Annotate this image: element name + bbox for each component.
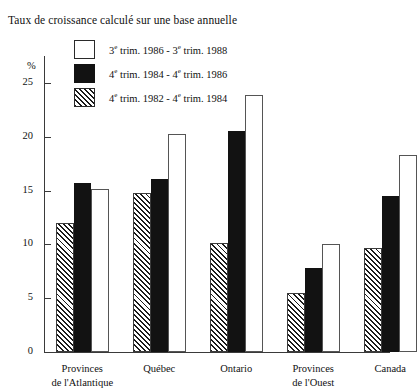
y-axis-tick-label: 25 bbox=[23, 76, 34, 88]
x-axis-category-label-2: Ontario bbox=[220, 362, 252, 376]
y-axis-line bbox=[44, 56, 45, 352]
y-axis-tick: 15 bbox=[44, 191, 51, 192]
y-axis-tick-label: 5 bbox=[28, 291, 33, 303]
y-axis-tick: 20 bbox=[44, 137, 51, 138]
bar-hatch-1 bbox=[133, 193, 151, 352]
y-axis-tick-label: 10 bbox=[23, 237, 34, 249]
y-axis-unit-label: % bbox=[27, 60, 36, 71]
y-axis-tick-label: 0 bbox=[28, 345, 33, 357]
x-axis-line bbox=[44, 352, 390, 353]
bar-hatch-0 bbox=[56, 223, 74, 352]
bar-black-3 bbox=[305, 268, 323, 352]
y-axis-tick: 5 bbox=[44, 298, 51, 299]
bar-white-1 bbox=[168, 134, 186, 353]
x-axis-category-label-1: Québec bbox=[143, 362, 175, 376]
bar-black-2 bbox=[228, 131, 246, 352]
x-axis-category-label-3: Provincesde l'Ouest bbox=[292, 362, 334, 390]
bar-white-4 bbox=[399, 155, 417, 352]
y-axis-tick-label: 20 bbox=[23, 130, 34, 142]
category-label-line1: Provinces bbox=[51, 362, 113, 376]
category-label-line1: Provinces bbox=[292, 362, 334, 376]
category-label-line1: Ontario bbox=[220, 362, 252, 376]
x-axis-category-label-4: Canada bbox=[375, 362, 407, 376]
y-axis-tick-label: 15 bbox=[23, 184, 34, 196]
category-label-line1: Canada bbox=[375, 362, 407, 376]
chart-subtitle: Taux de croissance calculé sur une base … bbox=[8, 14, 237, 26]
legend-label-0: 3e trim. 1986 - 3e trim. 1988 bbox=[109, 43, 227, 56]
category-label-line2: de l'Ouest bbox=[292, 376, 334, 390]
bar-black-0 bbox=[74, 183, 92, 352]
y-axis-tick: 25 bbox=[44, 83, 51, 84]
bar-white-0 bbox=[91, 189, 109, 352]
bar-hatch-3 bbox=[287, 293, 305, 352]
bar-white-2 bbox=[245, 95, 263, 352]
category-label-line2: de l'Atlantique bbox=[51, 376, 113, 390]
category-label-line1: Québec bbox=[143, 362, 175, 376]
bar-hatch-2 bbox=[210, 243, 228, 352]
bar-black-1 bbox=[151, 179, 169, 352]
y-axis-tick: 10 bbox=[44, 244, 51, 245]
plot-area: 0510152025Provincesde l'AtlantiqueQuébec… bbox=[44, 56, 390, 352]
x-axis-category-label-0: Provincesde l'Atlantique bbox=[51, 362, 113, 390]
bar-white-3 bbox=[322, 244, 340, 352]
y-axis-tick: 0 bbox=[44, 352, 51, 353]
bar-black-4 bbox=[382, 196, 400, 352]
bar-hatch-4 bbox=[364, 248, 382, 352]
